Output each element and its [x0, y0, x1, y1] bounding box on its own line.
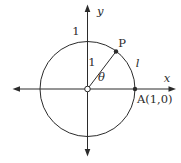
- arc-length-label: l: [136, 56, 140, 70]
- point-p-label: P: [118, 36, 126, 50]
- unit-circle-figure: y x 1 P 1 l θ A(1,0): [0, 0, 181, 163]
- y-axis-label: y: [96, 4, 104, 18]
- point-a-label: A(1,0): [136, 92, 173, 106]
- radius-label: 1: [88, 55, 95, 69]
- origin-marker: [85, 86, 91, 92]
- x-axis-left-arrowhead-icon: [13, 86, 21, 92]
- y-axis-bottom-arrowhead-icon: [85, 149, 91, 157]
- x-axis-label: x: [164, 71, 171, 85]
- x-axis-right-arrowhead-icon: [169, 86, 177, 92]
- point-a-dot: [133, 87, 137, 91]
- angle-theta-label: θ: [98, 70, 105, 84]
- unit-tick-label: 1: [72, 24, 79, 38]
- unit-circle-diagram: y x 1 P 1 l θ A(1,0): [0, 0, 181, 163]
- y-axis-top-arrowhead-icon: [85, 5, 91, 13]
